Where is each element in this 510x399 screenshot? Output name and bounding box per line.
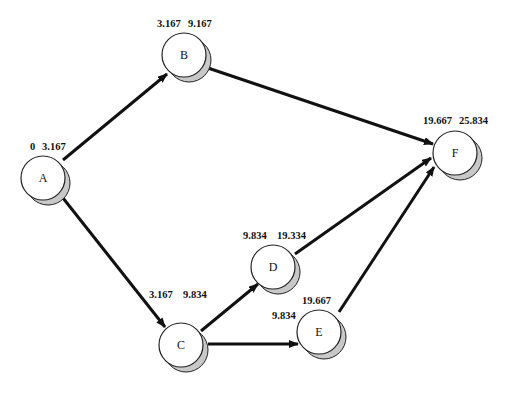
early-start-label: 19.667	[423, 115, 452, 126]
edge-d-to-f-arrow	[295, 158, 431, 254]
early-start-label: 0	[30, 141, 35, 152]
early-start-label: 3.167	[157, 18, 181, 29]
early-finish-label: 25.834	[459, 115, 489, 126]
early-finish-label: 19.667	[302, 295, 331, 306]
node-label: D	[269, 260, 278, 274]
node-label: E	[315, 325, 322, 339]
early-finish-label: 19.334	[277, 230, 307, 241]
edge-a-to-b-arrow	[63, 74, 167, 160]
node-label: A	[39, 171, 48, 185]
early-start-label: 3.167	[149, 289, 173, 300]
node-label: C	[177, 338, 185, 352]
node-d: D9.83419.334	[243, 230, 307, 294]
node-label: F	[452, 146, 459, 160]
node-b: B3.1679.167	[157, 18, 212, 82]
node-a: A03.167	[21, 141, 70, 205]
edges-layer	[63, 68, 434, 344]
node-e: E9.83419.667	[272, 295, 346, 359]
early-finish-label: 9.834	[183, 289, 207, 300]
early-finish-label: 3.167	[42, 141, 66, 152]
edge-a-to-c-arrow	[63, 198, 165, 327]
early-start-label: 9.834	[272, 310, 296, 321]
node-label: B	[180, 48, 188, 62]
early-start-label: 9.834	[243, 230, 267, 241]
nodes-layer: A03.167B3.1679.167C3.1679.834D9.83419.33…	[21, 18, 489, 372]
edge-c-to-d-arrow	[201, 284, 258, 331]
early-finish-label: 9.167	[188, 18, 212, 29]
node-c: C3.1679.834	[149, 289, 208, 372]
network-diagram: A03.167B3.1679.167C3.1679.834D9.83419.33…	[0, 0, 510, 399]
edge-b-to-f-arrow	[208, 68, 433, 144]
